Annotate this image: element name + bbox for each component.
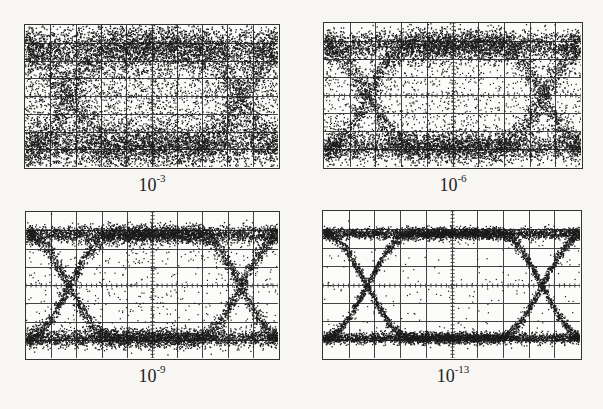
panel-label-1e-6: 10-6 — [393, 174, 513, 196]
label-exponent: -3 — [156, 172, 165, 184]
eye-diagram-ber-1e-9 — [25, 211, 280, 360]
eye-plot-canvas — [324, 23, 581, 167]
eye-plot-canvas — [25, 25, 278, 167]
label-exponent: -13 — [455, 363, 470, 375]
eye-plot-canvas — [26, 212, 278, 358]
panel-label-1e-9: 10-9 — [92, 365, 212, 387]
label-exponent: -6 — [457, 172, 466, 184]
panel-label-1e-13: 10-13 — [393, 365, 513, 387]
panel-label-1e-3: 10-3 — [92, 174, 212, 196]
label-base: 10 — [439, 175, 457, 195]
eye-plot-canvas — [323, 211, 580, 358]
eye-diagram-ber-1e-13 — [322, 210, 582, 360]
label-base: 10 — [138, 175, 156, 195]
label-base: 10 — [138, 366, 156, 386]
label-base: 10 — [437, 366, 455, 386]
eye-diagram-ber-1e-6 — [323, 22, 583, 169]
label-exponent: -9 — [156, 363, 165, 375]
eye-diagram-ber-1e-3 — [24, 24, 280, 169]
